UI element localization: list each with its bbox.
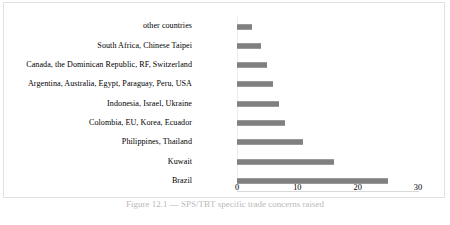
bar-track (237, 159, 334, 165)
bar-row: Colombia, EU, Korea, Ecuador (4, 114, 444, 133)
bar[interactable] (237, 120, 285, 126)
bar-row: Indonesia, Israel, Ukraine (4, 94, 444, 113)
bar-row: Argentina, Australia, Egypt, Paraguay, P… (4, 75, 444, 94)
bar-category-label: Brazil (0, 177, 192, 185)
bar[interactable] (237, 101, 279, 107)
x-tick-label: 0 (225, 183, 249, 192)
bar-category-label: Philippines, Thailand (0, 138, 192, 146)
bar[interactable] (237, 81, 273, 87)
bar-row: Canada, the Dominican Republic, RF, Swit… (4, 56, 444, 75)
bar-row: Philippines, Thailand (4, 133, 444, 152)
bar-track (237, 24, 252, 30)
bar-track (237, 62, 267, 68)
bar[interactable] (237, 159, 334, 165)
figure-caption: Figure 12.1 — SPS/TBT specific trade con… (0, 200, 450, 225)
bar-category-label: Argentina, Australia, Egypt, Paraguay, P… (0, 80, 192, 88)
category-axis-line (237, 191, 419, 192)
bar-track (237, 81, 273, 87)
x-tick-label: 20 (346, 183, 370, 192)
bar[interactable] (237, 43, 261, 49)
bar-chart-plot-area: other countriesSouth Africa, Chinese Tai… (4, 3, 444, 197)
bar-category-label: Canada, the Dominican Republic, RF, Swit… (0, 61, 192, 69)
bar-category-label: other countries (0, 22, 192, 30)
bar-row: South Africa, Chinese Taipei (4, 36, 444, 55)
bar-track (237, 120, 285, 126)
bar[interactable] (237, 24, 252, 30)
bar[interactable] (237, 139, 303, 145)
x-tick-label: 10 (285, 183, 309, 192)
x-tick-label: 30 (406, 183, 430, 192)
bar-category-label: South Africa, Chinese Taipei (0, 42, 192, 50)
chart-frame: other countriesSouth Africa, Chinese Tai… (3, 2, 445, 198)
bar-row: Kuwait (4, 152, 444, 171)
bar[interactable] (237, 62, 267, 68)
bar-track (237, 101, 279, 107)
bar-category-label: Indonesia, Israel, Ukraine (0, 100, 192, 108)
bar-row: Brazil (4, 171, 444, 190)
bar-row: other countries (4, 17, 444, 36)
bar-track (237, 139, 303, 145)
bar-track (237, 43, 261, 49)
bar-category-label: Colombia, EU, Korea, Ecuador (0, 119, 192, 127)
bar-category-label: Kuwait (0, 158, 192, 166)
